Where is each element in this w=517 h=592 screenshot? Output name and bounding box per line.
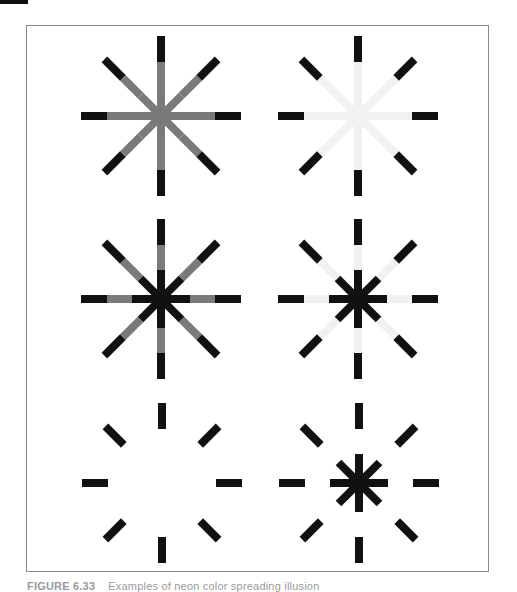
ray-segment bbox=[301, 59, 319, 77]
ray-segment bbox=[320, 261, 338, 279]
ray-segment bbox=[200, 426, 218, 444]
caption-label: FIGURE 6.33 bbox=[27, 580, 95, 592]
ray-segment bbox=[199, 337, 217, 355]
ray-segment bbox=[104, 154, 122, 172]
ray-segment bbox=[182, 137, 200, 155]
ray-segment bbox=[379, 78, 397, 96]
ray-segment bbox=[396, 154, 414, 172]
ray-segment bbox=[123, 320, 141, 338]
ray-segment bbox=[397, 521, 415, 539]
ray-segment bbox=[396, 337, 414, 355]
ray-segment bbox=[396, 242, 414, 260]
ray-segment bbox=[105, 521, 123, 539]
ray-segment bbox=[379, 261, 397, 279]
star-middle-left bbox=[81, 219, 241, 379]
ray-segment bbox=[105, 426, 123, 444]
ray-segment bbox=[123, 78, 141, 96]
ray-segment bbox=[200, 521, 218, 539]
ray-segment bbox=[320, 78, 338, 96]
star-top-left bbox=[81, 36, 241, 196]
ray-segment bbox=[104, 59, 122, 77]
ray-segment bbox=[199, 59, 217, 77]
ray-segment bbox=[396, 59, 414, 77]
star-middle-right bbox=[278, 219, 438, 379]
ray-segment bbox=[379, 137, 397, 155]
ray-segment bbox=[182, 320, 200, 338]
star-top-right bbox=[278, 36, 438, 196]
ray-segment bbox=[379, 320, 397, 338]
neon-spreading-figure bbox=[0, 0, 517, 592]
ray-segment bbox=[302, 426, 320, 444]
ray-segment bbox=[301, 154, 319, 172]
ray-segment bbox=[301, 242, 319, 260]
ray-segment bbox=[123, 137, 141, 155]
caption-text: Examples of neon color spreading illusio… bbox=[108, 580, 319, 592]
ray-segment bbox=[320, 320, 338, 338]
ray-segment bbox=[104, 242, 122, 260]
ray-segment bbox=[199, 154, 217, 172]
ray-segment bbox=[320, 137, 338, 155]
star-bottom-right bbox=[279, 403, 439, 563]
figure-caption: FIGURE 6.33 Examples of neon color sprea… bbox=[27, 580, 319, 592]
ray-segment bbox=[182, 261, 200, 279]
ray-segment bbox=[301, 337, 319, 355]
ray-segment bbox=[123, 261, 141, 279]
ray-segment bbox=[104, 337, 122, 355]
star-bottom-left bbox=[82, 403, 242, 563]
ray-segment bbox=[302, 521, 320, 539]
ray-segment bbox=[182, 78, 200, 96]
ray-segment bbox=[397, 426, 415, 444]
ray-segment bbox=[199, 242, 217, 260]
